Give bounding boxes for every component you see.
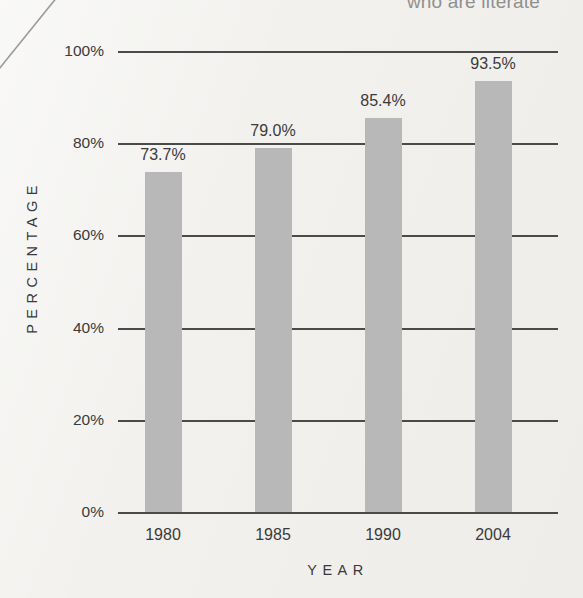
bar-chart-figure: who are literate PERCENTAGE 0%20%40%60%8… [0, 0, 583, 598]
y-tick-label-20: 20% [73, 411, 104, 429]
x-tick-label-2004: 2004 [475, 526, 511, 544]
bar-1980[interactable] [145, 172, 182, 512]
gridline-0 [118, 512, 558, 514]
x-tick-label-1985: 1985 [255, 526, 291, 544]
bar-1990[interactable] [365, 118, 402, 512]
bar-value-label-1990: 85.4% [360, 92, 405, 110]
x-axis-title: YEAR [118, 562, 558, 578]
bar-group-1990: 85.4%1990 [365, 51, 402, 512]
x-tick-label-1990: 1990 [365, 526, 401, 544]
bar-group-1980: 73.7%1980 [145, 51, 182, 512]
bar-value-label-2004: 93.5% [470, 55, 515, 73]
bar-value-label-1980: 73.7% [140, 146, 185, 164]
bar-group-2004: 93.5%2004 [475, 51, 512, 512]
y-tick-label-0: 0% [82, 503, 104, 521]
bar-value-label-1985: 79.0% [250, 122, 295, 140]
bar-2004[interactable] [475, 81, 512, 512]
chart-title-partial: who are literate [407, 0, 540, 13]
plot-area: 0%20%40%60%80%100% 73.7%198079.0%198585.… [118, 51, 558, 512]
y-tick-label-80: 80% [73, 134, 104, 152]
y-tick-label-100: 100% [64, 42, 104, 60]
x-tick-label-1980: 1980 [145, 526, 181, 544]
y-axis-title: PERCENTAGE [24, 180, 44, 334]
bar-group-1985: 79.0%1985 [255, 51, 292, 512]
y-tick-label-60: 60% [73, 226, 104, 244]
y-tick-label-40: 40% [73, 319, 104, 337]
bar-1985[interactable] [255, 148, 292, 512]
